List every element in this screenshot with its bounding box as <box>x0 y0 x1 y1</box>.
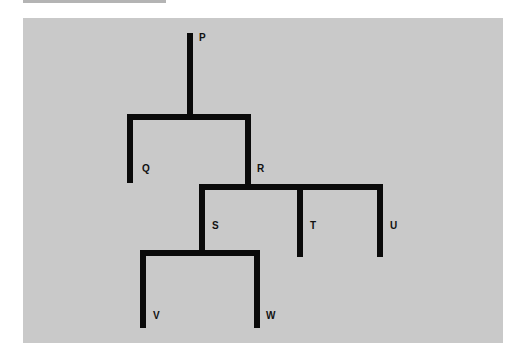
node-label-s: S <box>212 221 219 231</box>
node-label-u: U <box>390 221 397 231</box>
edge-t-branch <box>297 184 303 257</box>
tree-diagram-panel <box>23 18 503 343</box>
node-label-p: P <box>199 33 206 43</box>
edge-r-bar <box>199 184 383 190</box>
edge-s-branch <box>199 184 205 255</box>
edge-s-bar <box>140 250 260 256</box>
edge-p-stem <box>187 33 193 119</box>
edge-v-branch <box>140 250 146 328</box>
edge-p-bar <box>127 114 251 120</box>
node-label-w: W <box>266 311 275 321</box>
edge-w-branch <box>254 250 260 328</box>
edge-r-branch <box>245 114 251 189</box>
edge-q-branch <box>127 114 133 183</box>
node-label-r: R <box>257 164 264 174</box>
edge-u-branch <box>377 184 383 257</box>
top-strip <box>23 0 166 3</box>
node-label-q: Q <box>142 164 150 174</box>
node-label-t: T <box>310 221 316 231</box>
node-label-v: V <box>153 311 160 321</box>
